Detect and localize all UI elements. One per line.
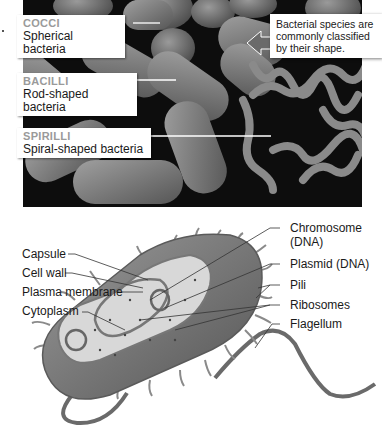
label-bacilli: BACILLI Rod-shaped bacteria [17, 73, 137, 116]
spirilli-description: Spiral-shaped bacteria [23, 143, 145, 156]
label-cell-wall: Cell wall [22, 267, 67, 280]
label-cytoplasm: Cytoplasm [22, 305, 79, 318]
stray-dot [2, 30, 4, 32]
label-plasma-membrane: Plasma membrane [22, 286, 123, 299]
label-capsule: Capsule [22, 248, 66, 261]
label-ribosomes: Ribosomes [290, 299, 350, 312]
label-chromosome: Chromosome [290, 222, 362, 235]
label-spirilli: SPIRILLI Spiral-shaped bacteria [17, 128, 151, 158]
label-chromosome-dna: (DNA) [290, 236, 323, 249]
bacilli-description: Rod-shaped bacteria [23, 88, 131, 114]
label-flagellum: Flagellum [290, 318, 342, 331]
label-cocci: COCCI Spherical bacteria [17, 15, 125, 58]
label-pili: Pili [290, 279, 306, 292]
shape-classification-callout: Bacterial species are commonly classifie… [270, 14, 382, 58]
cocci-description: Spherical bacteria [23, 30, 119, 56]
label-plasmid: Plasmid (DNA) [290, 258, 369, 271]
